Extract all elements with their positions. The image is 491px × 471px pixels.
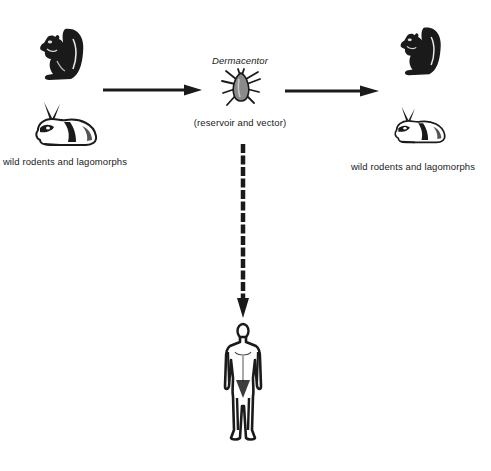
vector-name-label: Dermacentor	[190, 55, 290, 66]
rabbit-icon	[30, 100, 100, 148]
left-host-label: wild rodents and lagomorphs	[0, 156, 130, 167]
right-host-label: wild rodents and lagomorphs	[348, 161, 478, 172]
rabbit-icon	[390, 102, 448, 148]
tick-icon	[218, 67, 264, 109]
squirrel-icon	[395, 24, 445, 78]
arrow-host-to-vector	[100, 82, 204, 98]
left-host-group: wild rodents and lagomorphs	[20, 20, 110, 170]
vector-role-label: (reservoir and vector)	[180, 117, 300, 128]
squirrel-icon	[35, 25, 87, 83]
dashed-arrow-vector-to-human	[233, 142, 253, 322]
right-host-group: wild rodents and lagomorphs	[360, 20, 470, 175]
human-figure-icon	[220, 322, 266, 448]
